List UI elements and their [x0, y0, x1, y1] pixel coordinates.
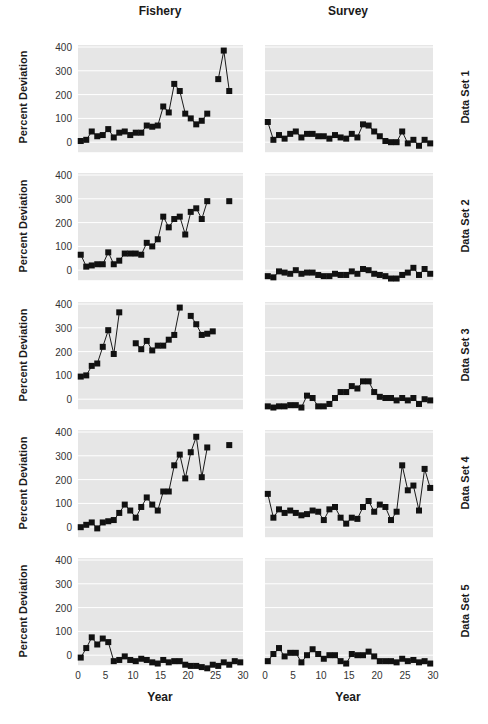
data-point-marker — [298, 134, 304, 140]
data-point-marker — [399, 395, 405, 401]
data-point-marker — [138, 346, 144, 352]
y-tick-label: 300 — [55, 194, 72, 205]
data-point-marker — [138, 656, 144, 662]
data-point-marker — [177, 305, 183, 311]
data-point-marker — [382, 395, 388, 401]
data-point-marker — [377, 658, 383, 664]
data-point-marker — [321, 517, 327, 523]
data-point-marker — [416, 401, 422, 407]
data-point-marker — [360, 378, 366, 384]
data-point-marker — [326, 506, 332, 512]
panel-fishery-3: 0100200300400 — [55, 299, 243, 409]
data-point-marker — [116, 309, 122, 315]
data-point-marker — [210, 662, 216, 668]
data-point-marker — [144, 657, 150, 663]
data-point-marker — [354, 134, 360, 140]
y-tick-label: 200 — [55, 475, 72, 486]
data-point-marker — [122, 128, 128, 134]
data-point-marker — [427, 397, 433, 403]
data-point-marker — [332, 271, 338, 277]
data-point-marker — [343, 389, 349, 395]
data-point-marker — [282, 136, 288, 142]
data-point-marker — [270, 405, 276, 411]
data-point-marker — [304, 652, 310, 658]
data-point-marker — [78, 374, 84, 380]
data-point-marker — [382, 658, 388, 664]
x-tick-label: 15 — [343, 670, 355, 681]
data-point-marker — [332, 652, 338, 658]
data-point-marker — [310, 131, 316, 137]
data-point-marker — [111, 134, 117, 140]
panel-fishery-1: 0100200300400 — [55, 42, 243, 152]
data-point-marker — [100, 636, 106, 642]
data-point-marker — [371, 653, 377, 659]
x-tick-label: 20 — [182, 670, 194, 681]
data-point-marker — [89, 262, 95, 268]
data-point-marker — [427, 140, 433, 146]
data-point-marker — [427, 661, 433, 667]
chart-grid: 0100200300400010020030040001002003004000… — [0, 0, 488, 724]
data-point-marker — [427, 485, 433, 491]
data-point-marker — [111, 658, 117, 664]
data-point-marker — [360, 266, 366, 272]
data-point-marker — [182, 475, 188, 481]
data-point-marker — [105, 327, 111, 333]
data-point-marker — [182, 111, 188, 117]
data-point-marker — [422, 137, 428, 143]
data-point-marker — [422, 266, 428, 272]
data-point-marker — [133, 251, 139, 257]
data-point-marker — [204, 444, 210, 450]
data-point-marker — [338, 658, 344, 664]
data-point-marker — [193, 121, 199, 127]
data-point-marker — [276, 506, 282, 512]
data-point-marker — [293, 128, 299, 134]
data-point-marker — [177, 214, 183, 220]
data-point-marker — [149, 659, 155, 665]
data-point-marker — [282, 270, 288, 276]
data-point-marker — [326, 136, 332, 142]
data-point-marker — [282, 653, 288, 659]
data-point-marker — [232, 658, 238, 664]
data-point-marker — [270, 274, 276, 280]
data-point-marker — [188, 313, 194, 319]
data-point-marker — [343, 521, 349, 527]
data-point-marker — [349, 383, 355, 389]
data-point-marker — [394, 139, 400, 145]
data-point-marker — [310, 646, 316, 652]
x-tick-label: 25 — [399, 670, 411, 681]
data-point-marker — [366, 123, 372, 129]
data-point-marker — [193, 663, 199, 669]
data-point-marker — [326, 273, 332, 279]
data-point-marker — [149, 347, 155, 353]
data-point-marker — [171, 332, 177, 338]
data-point-marker — [427, 271, 433, 277]
data-point-marker — [111, 261, 117, 267]
data-point-marker — [127, 508, 133, 514]
y-tick-label: 400 — [55, 555, 72, 566]
data-point-marker — [270, 515, 276, 521]
panel-survey-3 — [265, 302, 433, 411]
data-point-marker — [215, 76, 221, 82]
data-point-marker — [160, 214, 166, 220]
data-point-marker — [394, 509, 400, 515]
data-point-marker — [394, 276, 400, 282]
data-point-marker — [315, 651, 321, 657]
data-point-marker — [83, 372, 89, 378]
data-point-marker — [116, 657, 122, 663]
data-point-marker — [276, 268, 282, 274]
data-point-marker — [138, 130, 144, 136]
y-tick-label: 400 — [55, 299, 72, 310]
data-point-marker — [193, 434, 199, 440]
data-point-marker — [188, 663, 194, 669]
data-point-marker — [371, 271, 377, 277]
data-point-marker — [100, 132, 106, 138]
data-point-marker — [166, 337, 172, 343]
data-point-marker — [221, 48, 227, 54]
data-point-marker — [127, 251, 133, 257]
data-point-marker — [204, 331, 210, 337]
data-point-marker — [410, 395, 416, 401]
y-tick-label: 100 — [55, 498, 72, 509]
data-point-marker — [226, 88, 232, 94]
data-point-marker — [177, 88, 183, 94]
data-point-marker — [155, 123, 161, 129]
